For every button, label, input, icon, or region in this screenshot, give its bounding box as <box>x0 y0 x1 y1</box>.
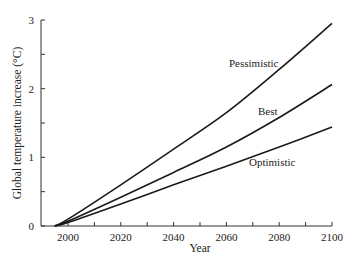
y-tick-label: 2 <box>29 83 35 95</box>
x-tick-label: 2020 <box>110 231 133 243</box>
series-label-optimistic: Optimistic <box>249 156 296 168</box>
y-tick-label: 1 <box>29 151 35 163</box>
series-lines <box>55 23 332 226</box>
x-tick-label: 2000 <box>57 231 80 243</box>
y-axis-title: Global temperature increase (°C) <box>11 47 24 200</box>
temperature-chart: 0123200020202040206020802100YearGlobal t… <box>0 0 356 267</box>
x-tick-label: 2080 <box>268 231 291 243</box>
x-tick-label: 2100 <box>321 231 344 243</box>
labels: PessimisticBestOptimistic <box>229 57 296 168</box>
series-label-pessimistic: Pessimistic <box>229 57 279 69</box>
line-optimistic <box>55 127 332 226</box>
x-tick-label: 2060 <box>215 231 238 243</box>
x-axis-title: Year <box>189 242 210 254</box>
y-tick-label: 3 <box>29 14 35 26</box>
y-tick-label: 0 <box>29 220 35 232</box>
series-label-best: Best <box>258 105 278 117</box>
line-pessimistic <box>55 23 332 226</box>
x-tick-label: 2040 <box>163 231 186 243</box>
axes: 0123200020202040206020802100YearGlobal t… <box>11 14 344 254</box>
